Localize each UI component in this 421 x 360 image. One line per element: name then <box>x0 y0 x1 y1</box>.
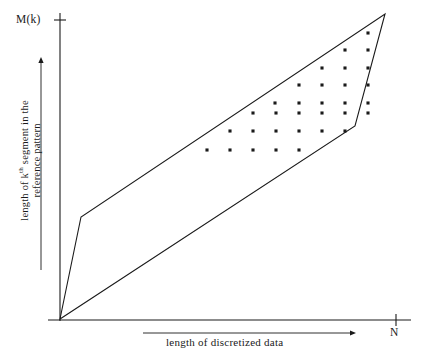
scatter-point <box>274 111 277 114</box>
y-axis-title: length of kth segment in the reference p… <box>19 65 44 255</box>
scatter-point <box>343 101 346 104</box>
y-axis-title-superscript: th <box>17 167 25 173</box>
scatter-point <box>343 83 346 86</box>
y-axis-title-prefix: length of k <box>19 173 30 221</box>
x-axis-max-label: N <box>390 326 398 340</box>
y-axis-title-suffix: segment in the <box>19 100 30 167</box>
scatter-point <box>251 148 254 151</box>
scatter-point <box>320 111 323 114</box>
scatter-point <box>228 148 231 151</box>
scatter-point <box>343 129 346 132</box>
axis-annotation-arrows <box>38 57 356 336</box>
scatter-point <box>297 101 300 104</box>
scatter-point <box>366 101 369 104</box>
scatter-point <box>320 83 323 86</box>
scatter-point <box>297 83 300 86</box>
figure-container: M(k) N length of discretized data length… <box>0 0 421 360</box>
scatter-point <box>366 111 369 114</box>
scatter-point <box>366 83 369 86</box>
scatter-point <box>251 111 254 114</box>
axes-group <box>48 13 411 326</box>
scatter-point <box>297 129 300 132</box>
y-axis-title-line-1: length of kth segment in the <box>19 65 31 255</box>
y-axis-label-arrowhead <box>38 57 43 63</box>
scatter-point <box>343 66 346 69</box>
scatter-point <box>366 66 369 69</box>
x-axis-title: length of discretized data <box>166 336 283 349</box>
scatter-point <box>205 148 208 151</box>
figure-drawing-canvas <box>0 0 421 360</box>
x-axis-label-arrowhead <box>350 330 356 335</box>
scatter-point <box>343 48 346 51</box>
scatter-point <box>320 129 323 132</box>
scatter-point <box>343 111 346 114</box>
y-axis-max-label: M(k) <box>16 13 40 27</box>
scatter-point <box>297 111 300 114</box>
scatter-point <box>320 101 323 104</box>
scatter-point <box>366 48 369 51</box>
scatter-point <box>228 129 231 132</box>
scatter-point <box>366 31 369 34</box>
scatter-point <box>297 148 300 151</box>
scatter-point <box>320 66 323 69</box>
y-axis-title-line-2: reference pattern <box>31 65 43 255</box>
scatter-point <box>274 148 277 151</box>
scatter-point-group <box>205 31 369 151</box>
scatter-point <box>274 129 277 132</box>
admissible-warping-region <box>60 14 385 319</box>
scatter-point <box>273 101 276 104</box>
scatter-point <box>251 129 254 132</box>
